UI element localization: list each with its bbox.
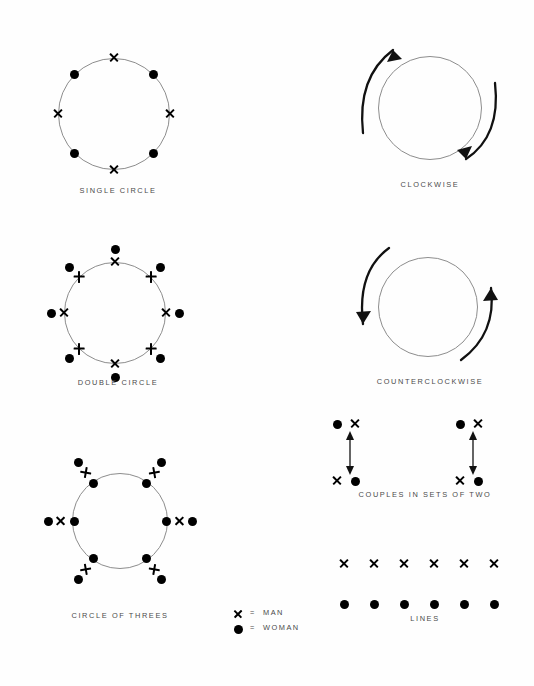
trio-woman bbox=[142, 479, 151, 488]
figure-lines: LINES bbox=[330, 552, 520, 632]
x-marker bbox=[107, 51, 121, 65]
diagram-page: SINGLE CIRCLE DOUBLE CIRCLE CIRCLE OF TH… bbox=[0, 0, 534, 686]
partner-man bbox=[159, 306, 173, 320]
formation-circle bbox=[72, 473, 168, 569]
caption-single-circle: SINGLE CIRCLE bbox=[28, 186, 208, 195]
set-2-arrowhead-up bbox=[469, 431, 477, 440]
legend-equals: = bbox=[250, 623, 256, 632]
trio-woman bbox=[157, 458, 166, 467]
circle-of-threes-stage bbox=[20, 425, 220, 605]
clockwise-stage bbox=[345, 28, 515, 180]
couples-stage bbox=[325, 418, 525, 488]
line-woman bbox=[370, 600, 379, 609]
trio-woman bbox=[44, 517, 53, 526]
symbol-legend: = MAN = WOMAN bbox=[232, 607, 342, 637]
dot-marker bbox=[70, 149, 79, 158]
trio-woman bbox=[157, 575, 166, 584]
counterclockwise-arrows bbox=[345, 232, 515, 375]
partner-woman bbox=[156, 263, 165, 272]
partner-woman bbox=[175, 309, 184, 318]
dot-marker bbox=[149, 70, 158, 79]
x-marker bbox=[107, 163, 121, 177]
figure-clockwise: CLOCKWISE bbox=[345, 28, 515, 203]
couples-connectors bbox=[325, 418, 525, 488]
line-man bbox=[367, 557, 381, 571]
line-woman bbox=[460, 600, 469, 609]
partner-woman bbox=[156, 354, 165, 363]
partner-woman bbox=[65, 354, 74, 363]
trio-man bbox=[172, 514, 186, 528]
x-marker bbox=[51, 107, 65, 121]
legend-equals: = bbox=[250, 608, 256, 617]
line-woman bbox=[400, 600, 409, 609]
caption-lines: LINES bbox=[330, 614, 520, 623]
partner-man bbox=[144, 270, 158, 284]
trio-woman bbox=[89, 479, 98, 488]
set-1-arrowhead-up bbox=[346, 431, 354, 440]
caption-double-circle: DOUBLE CIRCLE bbox=[28, 378, 208, 387]
partner-woman bbox=[47, 309, 56, 318]
dot-marker bbox=[70, 70, 79, 79]
caption-counterclockwise: COUNTERCLOCKWISE bbox=[345, 377, 515, 386]
line-man bbox=[457, 557, 471, 571]
left-arc-arrowhead bbox=[356, 311, 371, 324]
set-1-arrowhead-down bbox=[346, 466, 354, 475]
trio-woman bbox=[74, 575, 83, 584]
line-man bbox=[397, 557, 411, 571]
set-2-arrowhead-down bbox=[469, 466, 477, 475]
trio-woman bbox=[142, 554, 151, 563]
partner-man bbox=[108, 357, 122, 371]
legend-label-man: MAN bbox=[263, 608, 284, 617]
caption-couples-in-sets-of-two: COUPLES IN SETS OF TWO bbox=[325, 490, 525, 499]
line-man bbox=[337, 557, 351, 571]
line-woman bbox=[490, 600, 499, 609]
lines-stage bbox=[330, 552, 520, 614]
partner-woman bbox=[111, 245, 120, 254]
partner-man bbox=[72, 270, 86, 284]
x-marker bbox=[163, 107, 177, 121]
left-arc-arrow bbox=[362, 50, 393, 133]
trio-man bbox=[54, 514, 68, 528]
caption-circle-of-threes: CIRCLE OF THREES bbox=[20, 611, 220, 620]
partner-man bbox=[57, 306, 71, 320]
line-man bbox=[487, 557, 501, 571]
figure-circle-of-threes: CIRCLE OF THREES bbox=[20, 425, 220, 640]
line-man bbox=[427, 557, 441, 571]
legend-row-woman: = WOMAN bbox=[232, 622, 342, 637]
clockwise-arrows bbox=[345, 28, 515, 180]
x-icon bbox=[232, 608, 245, 621]
trio-woman bbox=[74, 458, 83, 467]
legend-label-woman: WOMAN bbox=[263, 623, 300, 632]
dot-marker bbox=[149, 149, 158, 158]
trio-woman bbox=[70, 517, 79, 526]
partner-man bbox=[72, 342, 86, 356]
right-arc-arrowhead bbox=[483, 288, 498, 301]
legend-row-man: = MAN bbox=[232, 607, 342, 622]
dot-icon bbox=[234, 625, 243, 634]
line-woman bbox=[430, 600, 439, 609]
figure-counterclockwise: COUNTERCLOCKWISE bbox=[345, 232, 515, 402]
trio-woman bbox=[162, 517, 171, 526]
figure-double-circle: DOUBLE CIRCLE bbox=[28, 232, 208, 402]
single-circle-stage bbox=[28, 28, 208, 183]
counterclockwise-stage bbox=[345, 232, 515, 375]
trio-woman bbox=[188, 517, 197, 526]
double-circle-stage bbox=[28, 232, 208, 372]
figure-couples-in-sets-of-two: COUPLES IN SETS OF TWO bbox=[325, 418, 525, 508]
partner-man bbox=[108, 255, 122, 269]
partner-man bbox=[144, 342, 158, 356]
figure-single-circle: SINGLE CIRCLE bbox=[28, 28, 208, 208]
caption-clockwise: CLOCKWISE bbox=[345, 180, 515, 189]
